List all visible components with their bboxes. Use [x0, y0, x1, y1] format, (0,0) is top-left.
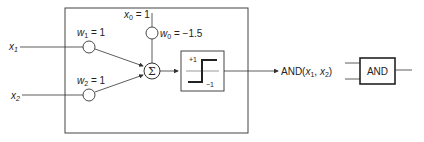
activation-upper-label: +1	[189, 56, 197, 63]
sigma-symbol: Σ	[148, 65, 156, 78]
and-gate-label: AND	[367, 66, 388, 77]
w1-to-sum-arrow	[95, 49, 143, 66]
perceptron-diagram: x1 x2 w1 = 1 w2 = 1 x0 = 1 w0 = −1.5 Σ +…	[0, 0, 424, 142]
output-label: AND(x1, x2)	[281, 66, 332, 78]
x0-label: x0 = 1	[123, 9, 150, 21]
x1-label: x1	[8, 41, 18, 53]
activation-lower-label: −1	[206, 81, 214, 88]
w2-weight-node	[83, 89, 95, 101]
w2-label: w2 = 1	[77, 75, 106, 87]
w1-weight-node	[83, 41, 95, 53]
w0-label: w0 = −1.5	[160, 28, 203, 40]
x2-label: x2	[10, 90, 20, 102]
w1-label: w1 = 1	[77, 27, 106, 39]
w0-weight-node	[146, 27, 158, 39]
